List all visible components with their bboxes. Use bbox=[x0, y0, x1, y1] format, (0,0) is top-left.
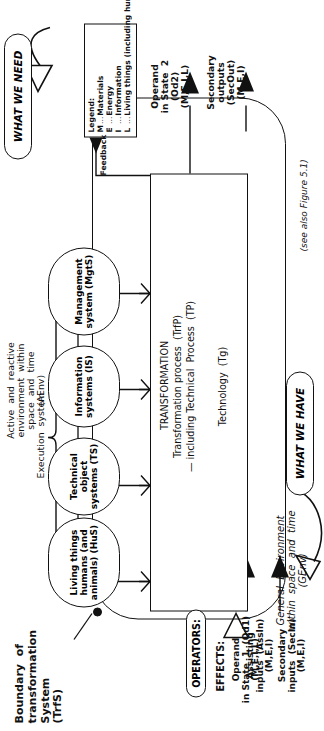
transformation-box-title: TRANSFORMATION bbox=[160, 225, 170, 545]
legend-key: L bbox=[124, 123, 133, 132]
subsystem-hus-label: Living things humans (and animals) (HuS) bbox=[69, 518, 99, 606]
transformation-box-line3: — including Technical Process (TP) bbox=[186, 211, 196, 561]
subsystem-mgts[interactable]: Management system (MgtS) bbox=[48, 247, 120, 335]
what-we-have-bubble: WHAT WE HAVE bbox=[286, 371, 314, 495]
subsystem-is-label: Information systems (IS) bbox=[74, 346, 94, 426]
what-we-have-label: WHAT WE HAVE bbox=[294, 387, 306, 478]
technology-label: Technology (Tg) bbox=[218, 271, 228, 501]
legend-value: Living things (including humans) bbox=[124, 0, 133, 115]
subsystem-mgts-label: Management system (MgtS) bbox=[74, 248, 94, 334]
boundary-node-dot bbox=[93, 607, 102, 616]
what-we-need-bubble: WHAT WE NEED bbox=[4, 33, 32, 159]
transformation-box-line2: Transformation process (TrfP) bbox=[173, 211, 183, 561]
output-operand-state-2-label: Operand in State 2 (Od2) (M,E,I,L) bbox=[150, 41, 190, 131]
figure-caption: (see also Figure 5.1) bbox=[300, 159, 310, 251]
execution-system-label: Execution system bbox=[36, 375, 46, 495]
feedback-label: Feedback bbox=[100, 134, 108, 175]
diagram-canvas: Living things humans (and animals) (HuS)… bbox=[0, 0, 324, 731]
legend-row: L ... Living things (including humans) bbox=[124, 0, 133, 132]
subsystem-is[interactable]: Information systems (IS) bbox=[48, 345, 120, 427]
input-secondary-label: Secondary inputs (SecIn) (M,E,I) bbox=[278, 605, 307, 705]
what-we-need-label: WHAT WE NEED bbox=[12, 50, 24, 142]
input-assisting-label: Assisting inputs (AssIn) (M,E,I) bbox=[246, 605, 275, 705]
subsystem-ts-label: Technical object systems (TS) bbox=[69, 438, 99, 514]
boundary-title: Boundary of transformation System (TrfS) bbox=[14, 583, 65, 723]
output-secondary-outputs-label: Secondary outputs (SecOut) (M,E,I) bbox=[206, 37, 246, 127]
effects-label: EFFECTS: bbox=[216, 640, 226, 691]
legend-box: Legend: M ... Materials E ... Energy I .… bbox=[84, 23, 137, 137]
subsystem-ts[interactable]: Technical object systems (TS) bbox=[48, 437, 120, 515]
legend-sep: ... bbox=[124, 115, 133, 123]
operators-pill: OPERATORS: bbox=[186, 609, 206, 697]
operators-label: OPERATORS: bbox=[191, 619, 202, 688]
figure-frame: Living things humans (and animals) (HuS)… bbox=[0, 0, 324, 731]
